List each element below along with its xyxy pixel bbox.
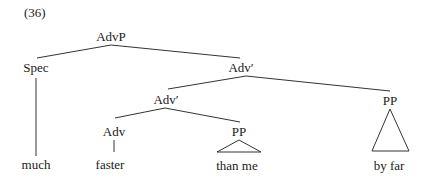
triangle-pp-than (217, 140, 261, 152)
edge-advbar-pp-than (165, 108, 240, 122)
node-pp-than: PP (232, 125, 246, 139)
node-spec: Spec (23, 61, 48, 75)
tree-branches (0, 0, 429, 183)
edge-advbar-pp-by (246, 76, 390, 91)
leaf-by-far: by far (374, 159, 405, 173)
edge-advbar-advbar (168, 76, 246, 89)
node-adv: Adv (103, 125, 125, 139)
edge-advbar-adv (115, 108, 165, 118)
node-adv-bar-lower: Adv′ (153, 93, 178, 107)
edge-advp-spec (37, 45, 111, 58)
leaf-faster: faster (96, 158, 125, 172)
leaf-than-me: than me (216, 159, 258, 173)
triangle-pp-by (372, 109, 409, 151)
node-advp: AdvP (96, 30, 126, 44)
node-adv-bar-upper: Adv′ (228, 61, 253, 75)
node-pp-by: PP (383, 94, 397, 108)
edge-advp-advbar (111, 45, 240, 58)
leaf-much: much (22, 158, 51, 172)
